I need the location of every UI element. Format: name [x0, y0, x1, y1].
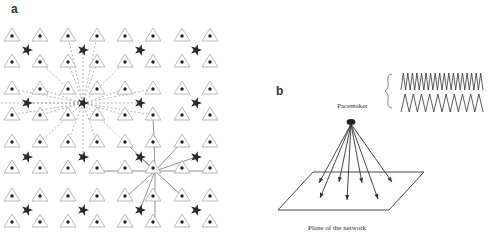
- triangle-neuron-icon: [60, 188, 76, 201]
- dashed-connections: [0, 36, 153, 157]
- triangle-neuron-icon: [174, 214, 190, 227]
- triangle-neuron-icon: [60, 160, 76, 173]
- triangle-neuron-icon: [117, 214, 133, 227]
- triangle-neuron-icon: [32, 134, 48, 147]
- triangle-neuron-icon: [174, 81, 190, 94]
- star-interneuron-icon: [22, 97, 33, 108]
- triangle-neuron-icon: [117, 54, 133, 67]
- triangle-neuron-icon: [174, 107, 190, 120]
- triangle-neuron-icon: [174, 188, 190, 201]
- star-interneuron-icon: [78, 204, 89, 215]
- triangle-neuron-icon: [32, 214, 48, 227]
- triangle-neuron-icon: [202, 160, 218, 173]
- triangle-neuron-icon: [202, 54, 218, 67]
- triangle-neuron-icon: [202, 214, 218, 227]
- slow-oscillation-trace: [401, 94, 483, 112]
- triangle-neuron-icon: [117, 28, 133, 41]
- triangle-neuron-icon: [60, 54, 76, 67]
- fast-oscillation-trace: [401, 73, 483, 90]
- arrow-icon: [351, 124, 392, 182]
- triangle-neuron-icon: [202, 81, 218, 94]
- triangle-neuron-icon: [174, 28, 190, 41]
- triangle-neuron-icon: [89, 134, 105, 147]
- triangle-neuron-icon: [145, 81, 161, 94]
- triangle-neuron-icon: [32, 188, 48, 201]
- star-interneuron-icon: [22, 204, 33, 215]
- bracket-icon: [385, 74, 392, 108]
- oscillation-traces: [385, 73, 483, 112]
- triangle-neuron-icon: [89, 54, 105, 67]
- triangle-neuron-icon: [174, 134, 190, 147]
- arrow-icon: [319, 124, 351, 183]
- triangle-neuron-icon: [145, 107, 161, 120]
- pacemaker-diagram: [278, 119, 424, 210]
- triangle-neuron-icon: [89, 81, 105, 94]
- triangle-neuron-icon: [89, 214, 105, 227]
- arrow-icon: [351, 124, 378, 199]
- triangle-neuron-icon: [202, 134, 218, 147]
- triangle-neuron-icon: [4, 188, 20, 201]
- triangle-neuron-icon: [145, 54, 161, 67]
- triangle-neuron-icon: [32, 28, 48, 41]
- triangle-neuron-icon: [4, 214, 20, 227]
- triangle-neuron-icon: [4, 107, 20, 120]
- star-interneuron-icon: [78, 44, 89, 55]
- triangle-neuron-icon: [174, 160, 190, 173]
- triangle-neuron-icon: [32, 160, 48, 173]
- triangle-neuron-icon: [32, 81, 48, 94]
- triangle-neuron-icon: [117, 81, 133, 94]
- triangle-neuron-icon: [117, 134, 133, 147]
- pyramidal-neurons: [4, 28, 218, 227]
- triangle-neuron-icon: [4, 54, 20, 67]
- triangle-neuron-icon: [117, 188, 133, 201]
- pacemaker-node-icon: [347, 119, 356, 125]
- triangle-neuron-icon: [60, 134, 76, 147]
- triangle-neuron-icon: [32, 107, 48, 120]
- star-interneuron-icon: [135, 204, 146, 215]
- star-interneuron-icon: [22, 44, 33, 55]
- triangle-neuron-icon: [32, 54, 48, 67]
- triangle-neuron-icon: [145, 160, 161, 173]
- star-interneuron-icon: [191, 204, 202, 215]
- star-interneuron-icon: [191, 151, 202, 162]
- triangle-neuron-icon: [117, 160, 133, 173]
- triangle-neuron-icon: [145, 134, 161, 147]
- star-interneuron-icon: [191, 44, 202, 55]
- network-diagram: [0, 0, 489, 239]
- triangle-neuron-icon: [145, 28, 161, 41]
- triangle-neuron-icon: [60, 214, 76, 227]
- network-plane: [278, 172, 424, 210]
- triangle-neuron-icon: [202, 107, 218, 120]
- triangle-neuron-icon: [202, 28, 218, 41]
- star-interneuron-icon: [22, 151, 33, 162]
- triangle-neuron-icon: [145, 214, 161, 227]
- triangle-neuron-icon: [4, 160, 20, 173]
- triangle-neuron-icon: [89, 188, 105, 201]
- triangle-neuron-icon: [60, 28, 76, 41]
- arrow-icon: [320, 124, 351, 198]
- triangle-neuron-icon: [4, 28, 20, 41]
- triangle-neuron-icon: [89, 160, 105, 173]
- triangle-neuron-icon: [4, 134, 20, 147]
- triangle-neuron-icon: [89, 28, 105, 41]
- triangle-neuron-icon: [4, 81, 20, 94]
- star-interneuron-icon: [191, 97, 202, 108]
- star-interneuron-icon: [78, 151, 89, 162]
- triangle-neuron-icon: [202, 188, 218, 201]
- triangle-neuron-icon: [174, 54, 190, 67]
- star-interneuron-icon: [135, 44, 146, 55]
